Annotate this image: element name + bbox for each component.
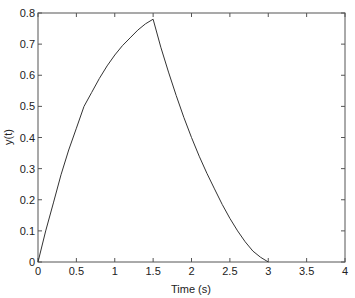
y-tick-label: 0.5 bbox=[20, 100, 35, 112]
y-axis-label: y(t) bbox=[2, 129, 14, 145]
x-tick-label: 1.5 bbox=[145, 265, 160, 277]
y-tick-label: 0.4 bbox=[20, 132, 35, 144]
x-tick-label: 0.5 bbox=[69, 265, 84, 277]
x-tick-label: 3.5 bbox=[299, 265, 314, 277]
x-axis-label: Time (s) bbox=[171, 283, 211, 295]
x-tick-label: 0 bbox=[35, 265, 41, 277]
x-tick-label: 3 bbox=[265, 265, 271, 277]
line-chart: 00.511.522.533.54 00.10.20.30.40.50.60.7… bbox=[0, 0, 355, 298]
x-tick-label: 4 bbox=[342, 265, 348, 277]
y-tick-label: 0 bbox=[29, 256, 35, 268]
x-tick-label: 2.5 bbox=[222, 265, 237, 277]
x-tick-label: 2 bbox=[188, 265, 194, 277]
y-tick-label: 0.1 bbox=[20, 225, 35, 237]
y-tick-label: 0.7 bbox=[20, 38, 35, 50]
y-tick-label: 0.6 bbox=[20, 69, 35, 81]
y-tick-label: 0.3 bbox=[20, 163, 35, 175]
y-tick-label: 0.2 bbox=[20, 194, 35, 206]
x-tick-label: 1 bbox=[112, 265, 118, 277]
y-tick-label: 0.8 bbox=[20, 7, 35, 19]
